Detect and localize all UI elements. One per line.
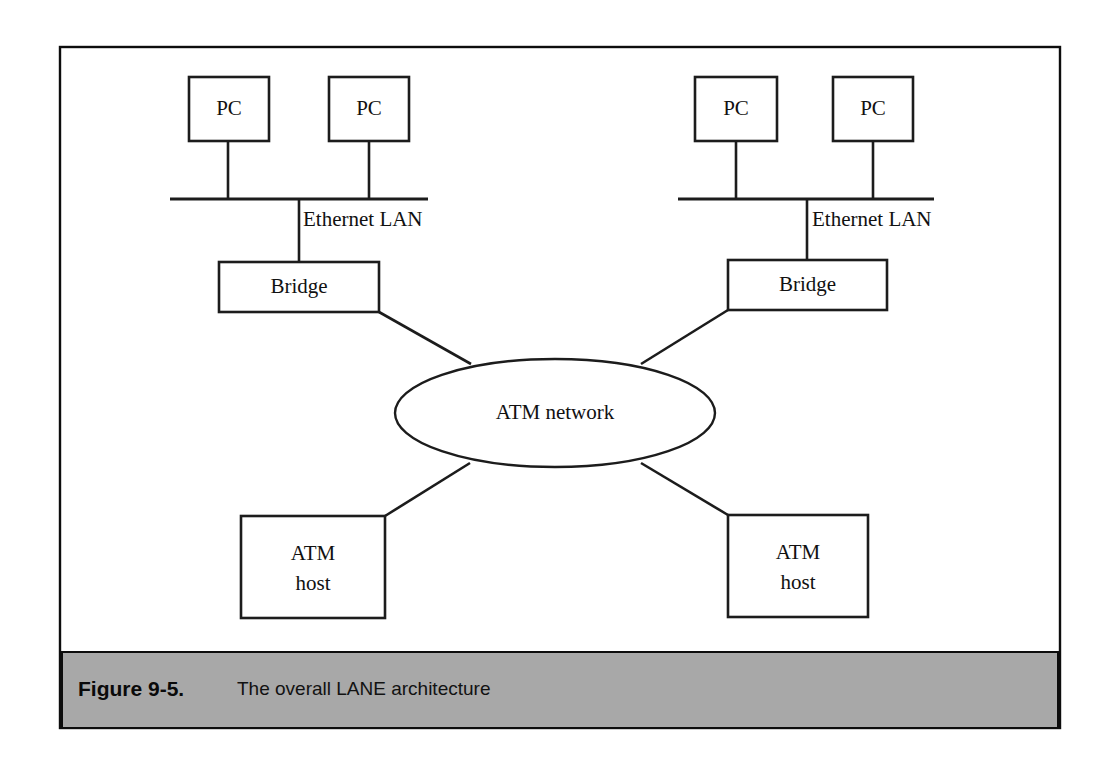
pc-right-1-label: PC <box>723 96 749 120</box>
pc-left-1-label: PC <box>216 96 242 120</box>
right-ethernet-segment: Ethernet LAN <box>678 141 934 260</box>
caption-figure-title: The overall LANE architecture <box>237 678 490 699</box>
network-diagram: Ethernet LAN Ethernet LAN ATM network PC <box>0 0 1113 766</box>
left-ethernet-segment: Ethernet LAN <box>170 141 428 262</box>
bridge-left-node: Bridge <box>219 262 379 312</box>
atm-host-right-label-line1: ATM <box>776 540 821 564</box>
atm-network-label: ATM network <box>496 400 615 424</box>
caption-figure-number: Figure 9-5. <box>78 677 184 700</box>
bridge-right-node: Bridge <box>728 260 887 310</box>
link-atm-host-right-to-atm-network <box>641 463 728 515</box>
atm-host-left-label-line2: host <box>295 571 330 595</box>
bridge-left-label: Bridge <box>270 274 327 298</box>
bridge-right-label: Bridge <box>779 272 836 296</box>
atm-host-left-box <box>241 516 385 618</box>
pc-right-2-label: PC <box>860 96 886 120</box>
pc-right-1-node: PC <box>695 77 777 141</box>
link-bridge-left-to-atm-network <box>379 312 471 364</box>
atm-host-right-node: ATM host <box>728 515 868 617</box>
pc-left-1-node: PC <box>189 77 269 141</box>
atm-host-right-label-line2: host <box>780 570 815 594</box>
atm-host-left-node: ATM host <box>241 516 385 618</box>
link-atm-host-left-to-atm-network <box>385 463 470 516</box>
figure-container: Ethernet LAN Ethernet LAN ATM network PC <box>0 0 1113 766</box>
atm-host-left-label-line1: ATM <box>291 541 336 565</box>
atm-network-node: ATM network <box>395 359 715 467</box>
pc-left-2-label: PC <box>356 96 382 120</box>
atm-host-right-box <box>728 515 868 617</box>
bus-label-ethernet-lan-right: Ethernet LAN <box>812 207 932 231</box>
caption-band-background <box>62 652 1058 728</box>
figure-caption: Figure 9-5. The overall LANE architectur… <box>62 652 1058 728</box>
bus-label-ethernet-lan-left: Ethernet LAN <box>303 207 423 231</box>
pc-right-2-node: PC <box>833 77 913 141</box>
link-bridge-right-to-atm-network <box>641 310 728 364</box>
pc-left-2-node: PC <box>329 77 409 141</box>
